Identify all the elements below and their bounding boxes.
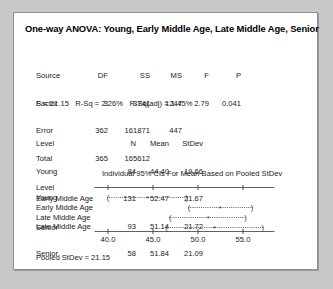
level-header-stdev: StDev: [169, 139, 203, 149]
tick-label-50: 50.0: [185, 235, 211, 244]
level-header-mean: Mean: [136, 139, 169, 149]
anova-header-f: F: [182, 71, 209, 81]
level-cell-n: 58: [114, 249, 136, 259]
level-table-header: LevelNMeanStDev: [36, 139, 203, 149]
ci-label-early-middle-age: Early Middle Age: [36, 203, 93, 213]
svg-text:): ): [261, 223, 264, 232]
pooled-stdev-footer: Pooled StDev = 21.15: [36, 253, 110, 262]
anova-cell-p: 0.041: [209, 99, 241, 109]
level-cell-mean: 51.84: [136, 249, 169, 259]
svg-text:*: *: [213, 224, 216, 233]
page-title: One-way ANOVA: Young, Early Middle Age, …: [25, 23, 319, 34]
ci-label-late-middle-age: Late Middle Age: [36, 213, 90, 223]
tick-label-40: 40.0: [95, 235, 121, 244]
anova-header-source: Source: [36, 71, 80, 81]
tick-label-55: 55.0: [230, 235, 256, 244]
level-cell-stdev: 21.72: [169, 222, 203, 232]
level-cell-mean: 51.14: [136, 222, 169, 232]
level-cell-stdev: 21.67: [169, 194, 203, 204]
tick-label-45: 45.0: [140, 235, 166, 244]
svg-text:*: *: [219, 204, 222, 213]
ci-label-young: Young: [36, 193, 57, 203]
level-header-level: Level: [36, 139, 114, 149]
svg-text:): ): [244, 213, 247, 222]
svg-text:*: *: [207, 214, 210, 223]
anova-header-ss: SS: [108, 71, 150, 81]
level-header-n: N: [114, 139, 136, 149]
ci-label-level-header: Level: [36, 183, 54, 193]
level-cell-stdev: 21.09: [169, 249, 203, 259]
ci-label-senior: Senior: [36, 223, 58, 233]
anova-header-df: DF: [80, 71, 108, 81]
anova-output-panel: One-way ANOVA: Young, Early Middle Age, …: [13, 12, 318, 270]
level-cell-n: 93: [114, 222, 136, 232]
anova-header-p: P: [209, 71, 241, 81]
svg-text:): ): [251, 203, 254, 212]
level-cell-mean: 52.47: [136, 194, 169, 204]
table-row: Late Middle Age9351.1421.72: [36, 222, 203, 232]
model-summary: S = 21.15 R-Sq = 2.26% R-Sq(adj) = 1.45%: [36, 99, 192, 108]
anova-table-header: SourceDFSSMSFP: [36, 71, 241, 81]
ci-plot-caption: Individual 95% CIs For Mean Based on Poo…: [102, 169, 282, 178]
level-cell-n: 131: [114, 194, 136, 204]
anova-header-ms: MS: [150, 71, 182, 81]
